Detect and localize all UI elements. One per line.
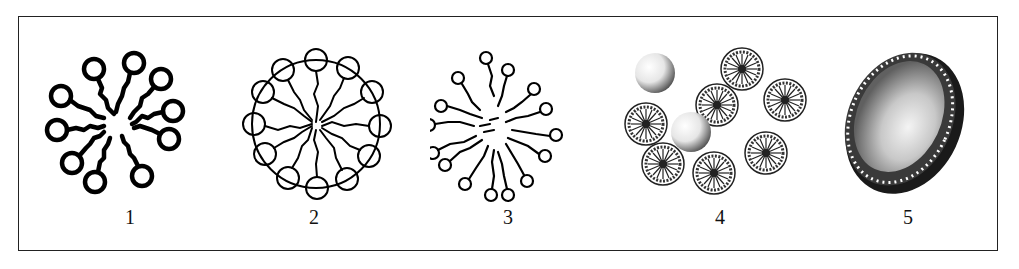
panel-3: 3 (430, 0, 610, 269)
micelle-ring-heads-icon (238, 30, 418, 230)
micelle-thick-tails-icon (30, 30, 230, 230)
panel-1: 1 (30, 0, 230, 269)
panel-label: 4 (700, 206, 740, 229)
panel-4: 4 (618, 0, 828, 269)
panel-label: 2 (294, 206, 334, 229)
panel-5: 5 (830, 0, 990, 269)
vesicle-icon (830, 30, 990, 230)
panel-label: 3 (488, 206, 528, 229)
panel-label: 5 (888, 206, 928, 229)
panel-2: 2 (238, 0, 418, 269)
panel-label: 1 (110, 206, 150, 229)
